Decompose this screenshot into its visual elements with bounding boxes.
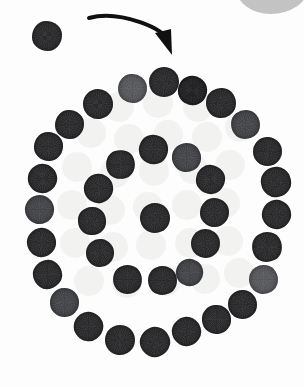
disc-inner	[78, 207, 107, 236]
disc-outer	[135, 322, 174, 361]
background-dot	[74, 266, 104, 296]
disc-outer	[167, 312, 207, 352]
disc-outer	[22, 158, 62, 198]
grey-corner-shape	[236, 0, 304, 14]
disc-outer	[102, 322, 139, 359]
disc-outer	[21, 191, 58, 228]
background-dot	[136, 230, 166, 260]
disc-outer	[247, 227, 287, 267]
disc-outer	[247, 131, 288, 172]
background-dot	[172, 190, 202, 220]
disc-center	[136, 199, 174, 237]
disc-inner	[110, 262, 145, 297]
disc-inner	[134, 130, 173, 169]
disc-outer	[80, 86, 116, 122]
arrow-stroke	[89, 16, 166, 39]
disc-outer	[258, 164, 293, 199]
photo-scene	[0, 0, 304, 387]
disc-inner	[194, 192, 235, 233]
disc-outer	[230, 109, 261, 140]
disc-outer	[257, 195, 296, 234]
disc-outer	[50, 288, 80, 318]
disc-inner	[194, 163, 227, 196]
disc-inner	[80, 233, 119, 272]
disc-outer	[112, 68, 153, 109]
disc-stray	[32, 21, 62, 51]
disc-outer	[23, 224, 59, 260]
disc-inner	[171, 254, 208, 291]
disc-inner	[189, 227, 221, 259]
disc-outer	[247, 263, 281, 297]
disc-outer	[145, 63, 182, 100]
arrow-head-icon	[155, 29, 172, 55]
